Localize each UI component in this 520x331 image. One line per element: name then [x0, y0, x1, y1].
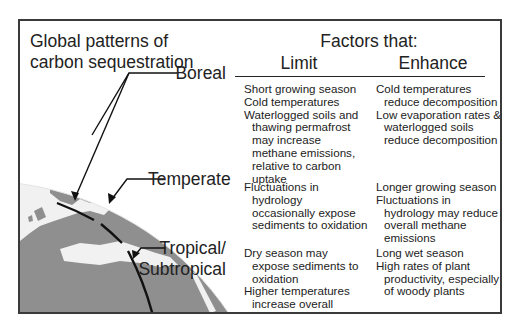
temperate-enhance-item: Fluctuations in hydrology may reduce ove… [376, 194, 502, 245]
tropical-limit-item: Higher temperatures increase overall met… [244, 285, 368, 314]
temperate-enhance-item: Longer growing season [376, 181, 502, 194]
boreal-limit-item: Waterlogged soils and thawing permafrost… [244, 109, 368, 186]
tropical-enhance-item: Long wet season [376, 247, 502, 260]
boreal-enhance-item: Low evaporation rates & waterlogged soil… [376, 109, 502, 147]
tropical-enhance-cell: Long wet season High rates of plant prod… [376, 247, 502, 298]
boreal-leader [92, 73, 178, 135]
diagram-title: Global patterns of carbon sequestration [30, 31, 193, 73]
factors-heading: Factors that: [234, 31, 502, 52]
zone-label-temperate: Temperate [148, 169, 226, 190]
boreal-limit-item: Short growing season [244, 83, 368, 96]
boreal-enhance-cell: Cold temperatures reduce decomposition L… [376, 83, 502, 147]
header-rule [235, 76, 485, 77]
boreal-limit-cell: Short growing season Cold temperatures W… [244, 83, 368, 185]
zone-label-tropical: Tropical/ Subtropical [130, 238, 226, 280]
boreal-enhance-item: Cold temperatures reduce decomposition [376, 83, 502, 109]
temperate-limit-item: Fluctuations in hydrology occasionally e… [244, 181, 368, 232]
tropical-limit-cell: Dry season may expose sediments to oxida… [244, 247, 368, 314]
column-header-enhance: Enhance [362, 53, 502, 74]
column-header-limit: Limit [234, 53, 364, 74]
temperate-limit-cell: Fluctuations in hydrology occasionally e… [244, 181, 368, 232]
diagram-frame: Global patterns of carbon sequestration … [18, 19, 502, 314]
temperate-enhance-cell: Longer growing season Fluctuations in hy… [376, 181, 502, 245]
tropical-limit-item: Dry season may expose sediments to oxida… [244, 247, 368, 285]
tropical-enhance-item: High rates of plant productivity, especi… [376, 260, 502, 298]
zone-label-boreal: Boreal [170, 63, 226, 84]
boreal-limit-item: Cold temperatures [244, 96, 368, 109]
